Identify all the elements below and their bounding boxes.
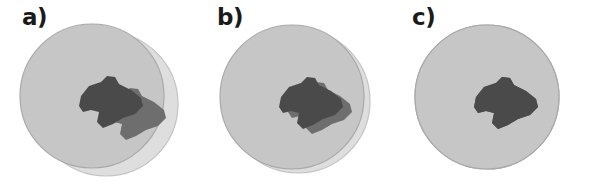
panel-b-label: b) (217, 6, 243, 29)
panel-c-label: c) (412, 6, 435, 29)
panel-b: b) (195, 0, 391, 191)
panel-c: c) (390, 0, 586, 191)
figure-root: a) b) c) (0, 0, 590, 191)
panel-a-label: a) (22, 6, 47, 29)
panel-a: a) (0, 0, 196, 191)
